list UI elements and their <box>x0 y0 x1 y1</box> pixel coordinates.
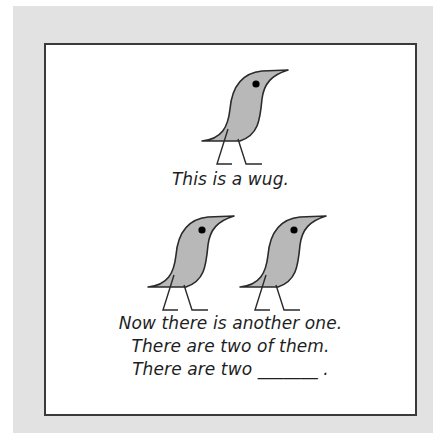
caption-line-another-one: Now there is another one. <box>46 313 415 333</box>
wug-bird-icon <box>138 215 238 315</box>
wug-test-card: This is a wug. Now there is another one.… <box>44 43 417 416</box>
caption-this-is-a-wug: This is a wug. <box>46 169 415 189</box>
caption-line-fill-in-blank: There are two _______ . <box>46 359 415 379</box>
wug-bird-icon <box>230 215 330 315</box>
caption-line-two-of-them: There are two of them. <box>46 336 415 356</box>
wug-bird-icon <box>192 69 292 169</box>
